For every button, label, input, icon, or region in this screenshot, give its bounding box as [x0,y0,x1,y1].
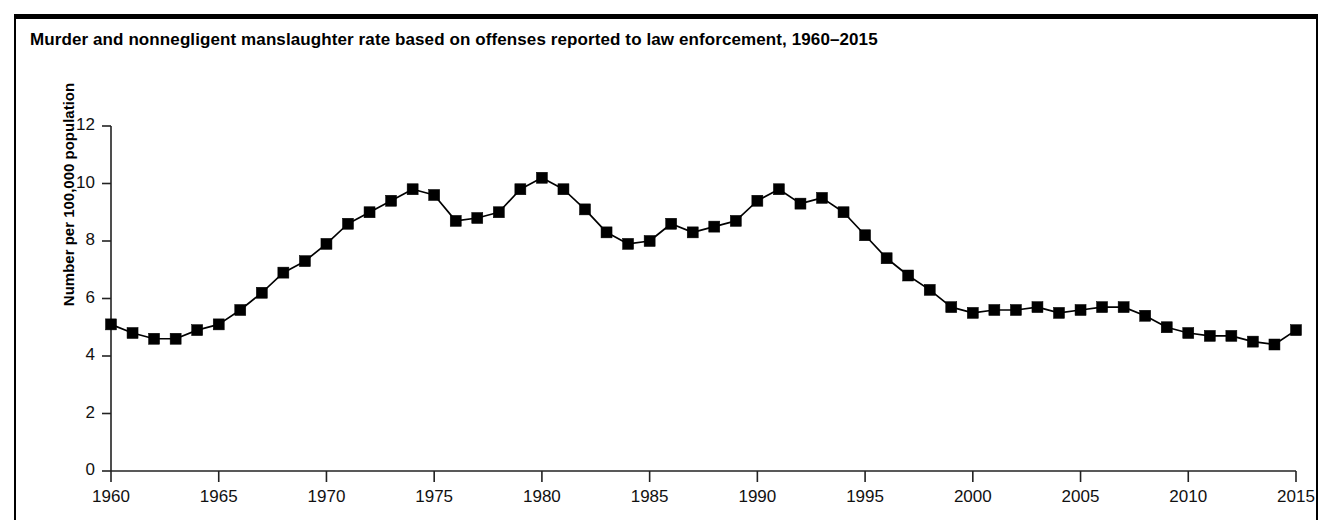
data-point-marker [170,333,181,344]
data-point-marker [343,218,354,229]
data-point-marker [1097,302,1108,313]
data-point-marker [623,238,634,249]
data-point-marker [1032,302,1043,313]
y-axis-tick-label: 4 [55,345,95,365]
data-point-marker [364,207,375,218]
data-point-marker [730,215,741,226]
data-point-marker [299,256,310,267]
data-point-marker [558,184,569,195]
data-line [111,178,1296,345]
data-point-marker [515,184,526,195]
data-point-marker [773,184,784,195]
data-series-group [106,172,1302,350]
data-point-marker [213,319,224,330]
data-point-marker [795,198,806,209]
data-point-marker [149,333,160,344]
x-axis-tick-label: 1975 [399,487,469,507]
data-point-marker [127,328,138,339]
x-axis-tick-label: 1960 [76,487,146,507]
data-point-marker [903,270,914,281]
x-axis-tick-label: 1985 [615,487,685,507]
data-point-marker [1247,336,1258,347]
x-axis-tick-label: 1980 [507,487,577,507]
data-point-marker [429,190,440,201]
data-point-marker [687,227,698,238]
data-point-marker [1161,322,1172,333]
data-point-marker [989,305,1000,316]
data-point-marker [1054,307,1065,318]
figure-container: Murder and nonnegligent manslaughter rat… [0,0,1332,520]
y-axis-tick-label: 0 [55,460,95,480]
y-axis-tick-label: 10 [55,173,95,193]
data-point-marker [1204,330,1215,341]
data-point-marker [860,230,871,241]
data-point-marker [472,213,483,224]
data-point-marker [752,195,763,206]
data-point-marker [386,195,397,206]
y-axis-tick-label: 12 [55,115,95,135]
data-point-marker [946,302,957,313]
data-point-marker [1183,328,1194,339]
data-point-marker [709,221,720,232]
x-axis-tick-label: 2010 [1153,487,1223,507]
data-point-marker [1226,330,1237,341]
data-point-marker [1118,302,1129,313]
x-axis-tick-label: 2000 [938,487,1008,507]
x-axis-tick-label: 1995 [830,487,900,507]
data-point-marker [106,319,117,330]
data-point-marker [666,218,677,229]
data-point-marker [601,227,612,238]
data-point-marker [493,207,504,218]
data-point-marker [924,284,935,295]
data-point-marker [278,267,289,278]
axes-group [102,126,1296,482]
data-point-marker [407,184,418,195]
y-axis-tick-label: 2 [55,403,95,423]
data-point-marker [580,204,591,215]
plot-area: Number per 100,000 population 024681012 … [0,0,1332,520]
line-chart-svg [0,0,1332,520]
data-point-marker [838,207,849,218]
data-point-marker [256,287,267,298]
data-point-marker [1269,339,1280,350]
data-point-marker [817,192,828,203]
x-axis-tick-label: 1970 [291,487,361,507]
data-point-marker [235,305,246,316]
data-point-marker [1140,310,1151,321]
y-axis-tick-label: 6 [55,288,95,308]
data-point-marker [1291,325,1302,336]
data-point-marker [967,307,978,318]
data-point-marker [644,236,655,247]
y-axis-title: Number per 100,000 population [60,65,77,325]
x-axis-tick-label: 1965 [184,487,254,507]
data-point-marker [192,325,203,336]
x-axis-tick-label: 1990 [722,487,792,507]
data-point-marker [321,238,332,249]
x-axis-tick-label: 2005 [1046,487,1116,507]
data-point-marker [536,172,547,183]
y-axis-tick-label: 8 [55,230,95,250]
x-axis-tick-label: 2015 [1261,487,1331,507]
data-point-marker [881,253,892,264]
data-point-marker [1075,305,1086,316]
data-point-marker [1010,305,1021,316]
data-point-marker [450,215,461,226]
